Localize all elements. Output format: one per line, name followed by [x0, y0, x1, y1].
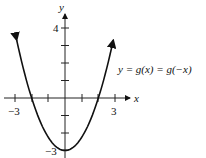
graph: y x −3 3 4 −3 y = g(x) = g(−x) — [0, 0, 206, 158]
plot-area: y x −3 3 4 −3 y = g(x) = g(−x) — [0, 0, 206, 158]
x-axis-label: x — [133, 92, 139, 104]
y-tick-label-bottom: −3 — [45, 145, 57, 157]
y-tick-label-top: 4 — [53, 22, 59, 34]
x-tick-label-max: 3 — [111, 105, 117, 117]
y-axis-label: y — [58, 1, 64, 13]
x-tick-label-min: −3 — [8, 105, 20, 117]
equation-label: y = g(x) = g(−x) — [117, 63, 192, 76]
